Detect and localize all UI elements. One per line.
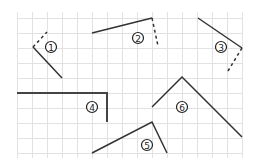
- solid-ray: [92, 122, 167, 153]
- label-number: 2: [135, 34, 141, 44]
- figure-label: 2: [133, 33, 144, 44]
- label-number: 3: [218, 43, 224, 53]
- dashed-ray: [228, 48, 242, 71]
- figure-label: 5: [142, 140, 153, 151]
- figure-label: 4: [87, 102, 98, 113]
- figure-label: 6: [177, 102, 188, 113]
- figure-label: 1: [46, 42, 57, 53]
- label-number: 5: [144, 141, 150, 151]
- figure-label: 3: [216, 42, 227, 53]
- figure-2: 2: [92, 18, 158, 46]
- figures-layer: 123456: [17, 18, 242, 153]
- label-number: 6: [179, 103, 185, 113]
- angle-diagram: 123456: [0, 0, 260, 166]
- label-number: 1: [48, 43, 54, 53]
- grid-background: [17, 12, 243, 158]
- dashed-ray: [33, 32, 47, 47]
- label-number: 4: [89, 103, 95, 113]
- figure-5: 5: [92, 122, 167, 153]
